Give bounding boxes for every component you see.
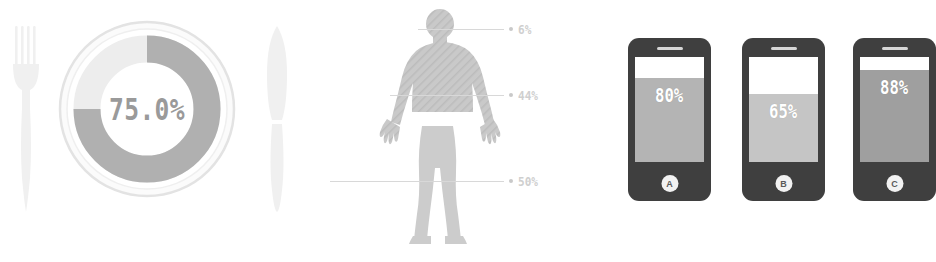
phone-a[interactable]: 80% A bbox=[628, 38, 711, 201]
phone-c-button-label: C bbox=[891, 179, 898, 189]
panel-phone-bars: 80% A 65% B 88% bbox=[610, 0, 927, 262]
phone-c-fill: 88% bbox=[860, 70, 929, 162]
phone-a-percent-label: 80% bbox=[655, 84, 683, 106]
callout-line bbox=[330, 181, 504, 182]
phone-b-percent-label: 65% bbox=[769, 100, 797, 122]
phone-b-home-button[interactable]: B bbox=[775, 175, 792, 192]
phone-c-home-button[interactable]: C bbox=[886, 175, 903, 192]
callout-torso-label: 44% bbox=[518, 88, 538, 103]
callout-head-label: 6% bbox=[518, 22, 531, 37]
phone-c-percent-label: 88% bbox=[880, 76, 908, 98]
callout-line bbox=[390, 95, 504, 96]
phone-speaker-icon bbox=[882, 47, 908, 50]
donut-gauge-svg bbox=[58, 20, 236, 198]
phone-c[interactable]: 88% C bbox=[853, 38, 936, 201]
phone-speaker-icon bbox=[771, 47, 797, 50]
callout-head[interactable]: 6% bbox=[418, 22, 534, 36]
phone-a-screen[interactable]: 80% bbox=[635, 57, 704, 162]
panel-plate-donut: 75.0% bbox=[0, 0, 310, 262]
callout-dot bbox=[509, 179, 513, 183]
phone-a-home-button[interactable]: A bbox=[661, 175, 678, 192]
phone-a-fill: 80% bbox=[635, 78, 704, 162]
phone-b[interactable]: 65% B bbox=[742, 38, 825, 201]
knife-icon bbox=[258, 24, 296, 214]
callout-legs[interactable]: 50% bbox=[330, 174, 541, 188]
fork-icon bbox=[8, 24, 44, 214]
callout-torso[interactable]: 44% bbox=[390, 88, 541, 102]
phone-b-screen[interactable]: 65% bbox=[749, 57, 818, 162]
phone-c-screen[interactable]: 88% bbox=[860, 57, 929, 162]
phone-b-button-label: B bbox=[780, 179, 787, 189]
callout-dot bbox=[509, 93, 513, 97]
body-silhouette-icon bbox=[360, 8, 520, 248]
phone-b-fill: 65% bbox=[749, 94, 818, 162]
donut-gauge[interactable]: 75.0% bbox=[58, 20, 236, 198]
callout-dot bbox=[509, 27, 513, 31]
callout-legs-label: 50% bbox=[518, 174, 538, 189]
phone-a-button-label: A bbox=[666, 179, 673, 189]
callout-line bbox=[418, 29, 504, 30]
panel-body-breakdown: 6% 44% 50% bbox=[330, 0, 610, 262]
phone-speaker-icon bbox=[657, 47, 683, 50]
